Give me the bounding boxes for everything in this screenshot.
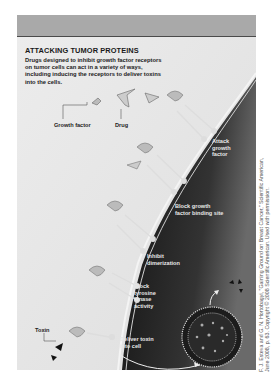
figure-description: Drugs designed to inhibit growth factor … — [25, 57, 165, 86]
growth-factor-label: Growth factor — [54, 122, 91, 129]
figure-title: ATTACKING TUMOR PROTEINS — [25, 46, 139, 55]
drug-label: Drug — [115, 122, 128, 129]
credit-line-2: June 2008, p. 63. Copyright © 2008 Scien… — [264, 102, 270, 372]
mechanism-label-block-binding-site: Block growth factor binding site — [175, 203, 223, 216]
mechanism-label-deliver-toxin: Deliver toxin into cell — [120, 336, 154, 349]
vesicle-icon — [182, 307, 242, 367]
mechanism-label-inhibit-dimerization: Inhibit dimerization — [147, 253, 180, 266]
image-credit: F. J. Esteva and G. N. Hortobagyi, "Gain… — [258, 102, 271, 372]
mechanism-label-block-tyrosine-kinase: Block tyrosine kinase activity — [134, 283, 156, 309]
mechanism-label-attack-growth-factor: Attack growth factor — [212, 138, 231, 158]
figure-panel: ATTACKING TUMOR PROTEINS Drugs designed … — [17, 15, 256, 370]
toxin-label: Toxin — [35, 327, 50, 334]
